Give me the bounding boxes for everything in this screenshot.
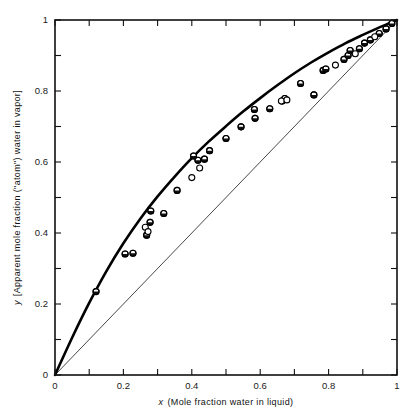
data-point xyxy=(311,92,317,98)
x-tick-label: 0 xyxy=(52,380,57,391)
x-tick-labels: 00.20.40.60.81 xyxy=(52,380,399,391)
x-axis-title: x(Mole fraction water in liquid) xyxy=(158,397,294,407)
data-point xyxy=(161,210,167,216)
data-point xyxy=(383,26,389,32)
y-tick-label: 0.4 xyxy=(35,227,48,238)
data-point xyxy=(189,175,195,181)
data-point xyxy=(284,97,290,103)
x-axis-title-text: (Mole fraction water in liquid) xyxy=(167,397,293,407)
marker-circle xyxy=(145,229,151,235)
data-point-group-open-circle xyxy=(142,34,377,235)
x-tick-label: 1 xyxy=(394,380,399,391)
x-tick-label: 0.4 xyxy=(185,380,198,391)
marker-circle xyxy=(189,175,195,181)
data-point xyxy=(389,21,395,27)
y-axis-title: y[Apparent mole fraction ("atom") water … xyxy=(12,90,22,306)
x-axis-symbol: x xyxy=(158,397,164,407)
y-tick-label: 0.6 xyxy=(35,156,48,167)
data-point xyxy=(352,51,358,57)
data-point xyxy=(191,153,197,159)
data-point xyxy=(362,40,368,46)
data-point xyxy=(372,34,378,40)
data-point xyxy=(201,156,207,162)
data-point xyxy=(174,187,180,193)
data-point xyxy=(298,81,304,87)
data-point xyxy=(130,250,136,256)
data-point xyxy=(267,106,273,112)
data-point xyxy=(238,124,244,130)
data-point xyxy=(223,136,229,142)
x-tick-label: 0.8 xyxy=(322,380,335,391)
data-point xyxy=(252,115,258,121)
y-tick-label: 0.8 xyxy=(35,85,48,96)
y-tick-label: 1 xyxy=(43,14,48,25)
y-axis-title-text: [Apparent mole fraction ("atom") water i… xyxy=(12,90,22,296)
marker-circle xyxy=(352,51,358,57)
y-tick-label: 0.2 xyxy=(35,298,48,309)
data-point xyxy=(251,106,257,112)
x-tick-label: 0.2 xyxy=(117,380,130,391)
data-point xyxy=(197,165,203,171)
marker-circle xyxy=(284,97,290,103)
data-point xyxy=(207,148,213,154)
data-point xyxy=(147,219,153,225)
marker-circle xyxy=(332,62,338,68)
data-point xyxy=(332,62,338,68)
y-tick-labels: 00.20.40.60.81 xyxy=(35,14,48,380)
data-point xyxy=(145,229,151,235)
data-point xyxy=(323,66,329,72)
y-tick-label: 0 xyxy=(43,369,48,380)
y-axis-symbol: y xyxy=(12,300,22,306)
vle-xy-diagram-figure: 00.20.40.60.8100.20.40.60.81x(Mole fract… xyxy=(0,0,418,418)
data-point xyxy=(148,208,154,214)
data-point xyxy=(93,289,99,295)
plot-area: 00.20.40.60.8100.20.40.60.81x(Mole fract… xyxy=(0,0,418,418)
data-point xyxy=(122,251,128,257)
x-tick-label: 0.6 xyxy=(254,380,267,391)
diagonal-reference-line xyxy=(55,20,397,375)
marker-circle xyxy=(372,34,378,40)
data-point-group-half-filled-circle xyxy=(93,21,395,295)
marker-circle xyxy=(197,165,203,171)
